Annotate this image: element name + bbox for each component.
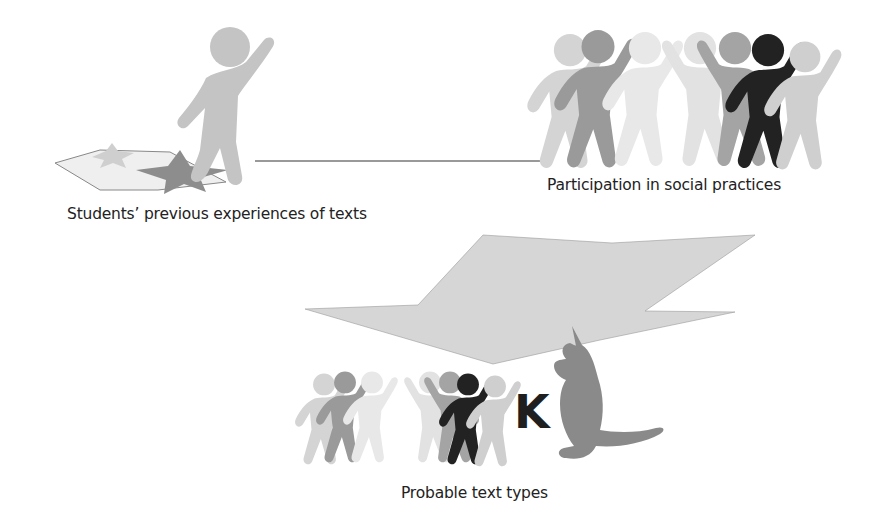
- participation-label: Participation in social practices: [547, 176, 781, 194]
- funnel-arrow-shape: [305, 235, 755, 364]
- letter-k-icon: K: [514, 385, 552, 439]
- kangaroo-icon: [554, 326, 663, 459]
- students-illustration: [55, 27, 274, 194]
- probable-text-types-label: Probable text types: [401, 484, 548, 502]
- diagram-canvas: K: [0, 0, 894, 528]
- participation-group-illustration: [527, 30, 841, 169]
- students-experiences-label: Students’ previous experiences of texts: [67, 205, 367, 223]
